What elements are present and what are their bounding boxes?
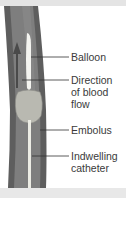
label-balloon: Balloon — [71, 51, 106, 63]
label-catheter-line1: Indwelling — [71, 150, 118, 162]
label-catheter-line2: catheter — [71, 162, 118, 174]
label-embolus: Embolus — [71, 124, 112, 136]
catheter — [28, 120, 31, 188]
embolus — [15, 90, 42, 123]
bottom-border — [0, 188, 126, 198]
balloon — [26, 33, 31, 90]
label-direction: Direction of blood flow — [71, 74, 112, 110]
label-catheter: Indwelling catheter — [71, 150, 118, 174]
label-direction-line3: flow — [71, 98, 112, 110]
label-direction-line1: Direction — [71, 74, 112, 86]
label-direction-line2: of blood — [71, 86, 112, 98]
